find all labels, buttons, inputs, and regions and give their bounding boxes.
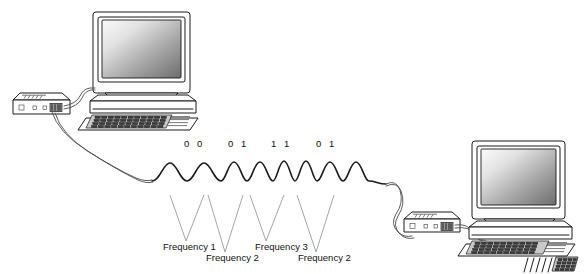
leader-frequency-1 <box>170 195 204 241</box>
bit-label-1: 0 0 <box>184 139 205 149</box>
right-computer[interactable] <box>458 141 578 272</box>
fsk-waveform <box>152 161 386 184</box>
left-modem[interactable] <box>13 93 70 114</box>
leader-frequency-3 <box>250 195 284 241</box>
frequency-label-4: Frequency 2 <box>298 253 351 263</box>
bit-label-2: 0 1 <box>228 139 249 149</box>
fsk-modem-diagram: 0 0 0 1 1 1 0 1 Frequency 1 Frequency 2 … <box>0 0 584 274</box>
left-computer[interactable] <box>78 12 198 130</box>
left-system-unit <box>90 101 196 113</box>
left-system-unit-top <box>90 95 196 101</box>
left-monitor-screen <box>102 20 181 78</box>
waveform-path <box>152 161 386 184</box>
right-monitor-screen <box>481 149 556 205</box>
frequency-label-3: Frequency 3 <box>255 242 308 252</box>
bit-label-4: 0 1 <box>316 139 337 149</box>
right-modem[interactable] <box>404 212 460 232</box>
right-system-unit <box>469 227 572 239</box>
frequency-label-1: Frequency 1 <box>163 242 216 252</box>
frequency-label-2: Frequency 2 <box>206 253 259 263</box>
bit-label-3: 1 1 <box>271 139 292 149</box>
right-numeric-keypad[interactable] <box>524 257 578 272</box>
right-system-unit-top <box>469 221 572 227</box>
diagram-canvas <box>0 0 584 274</box>
